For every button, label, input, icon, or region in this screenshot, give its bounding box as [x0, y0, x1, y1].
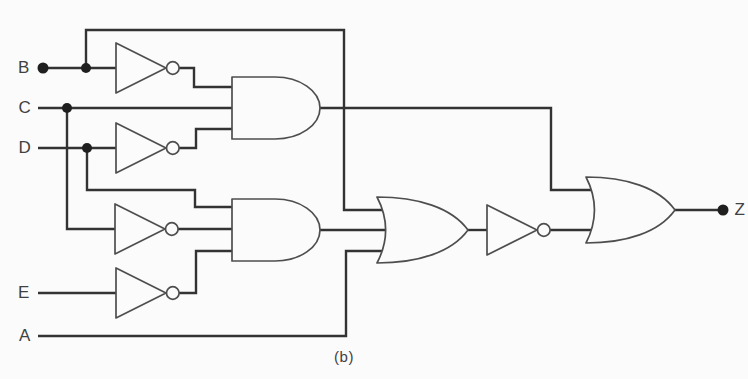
input-label-d: D: [19, 138, 32, 158]
wire-not-e-to-and2: [179, 251, 232, 293]
or-gate-2: [586, 177, 675, 243]
junction-b: [81, 63, 91, 73]
terminal-z: [718, 205, 729, 216]
wire-c-branch: [67, 108, 115, 229]
not-gate-c-bubble: [166, 223, 179, 236]
not-gate-5: [487, 205, 537, 255]
and-gate-2: [232, 199, 320, 261]
not-gate-5-bubble: [538, 224, 551, 237]
wire-not-d-to-and1: [179, 129, 232, 148]
figure-caption: (b): [334, 348, 354, 365]
wire-and1-out: [320, 108, 594, 190]
junction-d: [82, 143, 92, 153]
input-label-a: A: [19, 326, 31, 346]
not-gate-d-bubble: [167, 142, 180, 155]
logic-circuit-figure: B C D E A Z (b): [0, 0, 748, 379]
junction-c: [62, 103, 72, 113]
input-label-c: C: [19, 98, 32, 118]
not-gate-e: [116, 268, 166, 318]
circuit-svg: [0, 0, 748, 379]
or-gate-1: [377, 197, 468, 263]
output-label-z: Z: [735, 200, 746, 220]
wire-d-branch: [87, 148, 232, 207]
not-gate-e-bubble: [167, 287, 180, 300]
terminal-b: [38, 63, 49, 74]
wire-not-b-to-and1: [179, 68, 232, 87]
input-label-e: E: [18, 283, 30, 303]
not-gate-c: [115, 204, 165, 254]
input-label-b: B: [18, 58, 30, 78]
not-gate-d: [116, 123, 166, 173]
not-gate-b: [116, 43, 166, 93]
and-gate-1: [232, 77, 320, 139]
not-gate-b-bubble: [167, 62, 180, 75]
